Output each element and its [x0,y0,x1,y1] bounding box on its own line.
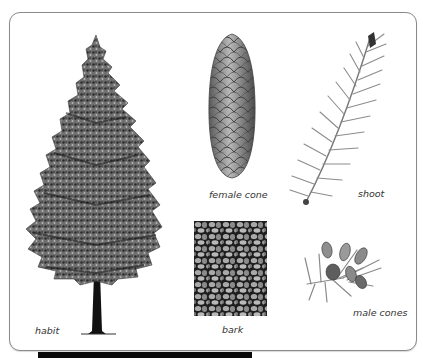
male-cones-label: male cones [353,307,407,318]
habit-label: habit [35,325,59,336]
female-cone-illustration [206,32,258,180]
bark-label: bark [222,324,243,335]
bottom-black-bar [38,352,252,358]
bark-illustration [194,221,267,316]
female-cone-label: female cone [209,189,268,200]
shoot-illustration [288,30,392,208]
habit-illustration [26,33,164,336]
male-cones-illustration [303,238,387,304]
shoot-label: shoot [358,188,384,199]
